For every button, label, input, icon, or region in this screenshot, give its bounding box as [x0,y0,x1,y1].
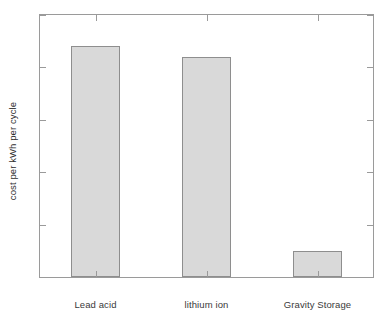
y-axis-tick [40,172,46,173]
x-axis-tick [207,271,208,277]
x-axis-tick [96,271,97,277]
y-axis-tick [40,225,46,226]
y-axis-tick [40,67,46,68]
y-axis-tick [40,277,46,278]
y-axis-tick [40,120,46,121]
y-axis-label: cost per kWh per cycle [7,51,18,251]
y-axis-tick-right [367,15,373,16]
y-axis-tick [40,15,46,16]
x-axis-tick-label: Lead acid [74,299,116,310]
x-axis-tick-label: lithium ion [185,299,229,310]
bar [182,57,231,277]
x-axis-tick-top [207,15,208,21]
x-axis-tick-label: Gravity Storage [284,299,352,310]
bar [71,46,120,277]
y-axis-tick-right [367,225,373,226]
x-axis-tick [318,271,319,277]
y-axis-tick-right [367,172,373,173]
plot-area: 00.511.522.5Lead acidlithium ionGravity … [39,14,374,278]
y-axis-tick-right [367,67,373,68]
y-axis-tick-right [367,277,373,278]
y-axis-tick-right [367,120,373,121]
x-axis-tick-top [318,15,319,21]
x-axis-tick-top [96,15,97,21]
